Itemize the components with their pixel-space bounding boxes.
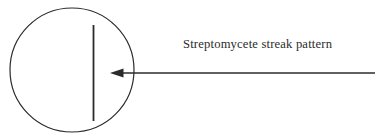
figure-root: Streptomycete streak pattern [0,0,378,139]
diagram-canvas [0,0,378,139]
annotation-label: Streptomycete streak pattern [183,36,332,52]
left-arrow-icon [110,69,124,78]
circle-outline-icon [10,8,134,132]
